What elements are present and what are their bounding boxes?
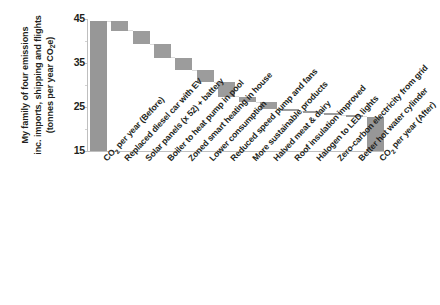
bar-step <box>154 44 171 58</box>
y-tick-label: 15 <box>61 144 85 156</box>
bar-step <box>175 58 192 71</box>
bar-step <box>346 115 363 117</box>
y-axis-line <box>87 19 88 152</box>
bar-step <box>111 21 128 31</box>
bar-step <box>282 109 299 111</box>
bar-step <box>303 111 320 113</box>
y-tick-minor <box>85 129 87 130</box>
category-label: CO2 per year (After) <box>378 100 439 165</box>
category-label: Reduced speed pump and fans <box>229 67 319 163</box>
y-tick-minor <box>85 85 87 86</box>
y-tick-label: 35 <box>61 56 85 68</box>
bar-step <box>133 31 150 44</box>
y-axis-title-text: My family of four emissionsinc. imports,… <box>7 15 57 155</box>
category-label: Lower consumption <box>208 99 269 163</box>
bar-step <box>218 82 235 97</box>
bar-total <box>367 117 384 151</box>
bar-step <box>324 113 341 115</box>
y-tick-label: 25 <box>61 100 85 112</box>
bar-step <box>260 102 277 109</box>
category-label: CO2 per year (Before) <box>102 95 168 165</box>
x-axis-line <box>87 151 386 152</box>
y-tick-minor <box>85 41 87 42</box>
y-axis-title: My family of four emissionsinc. imports,… <box>0 0 64 170</box>
bar-total <box>90 21 107 151</box>
y-tick-label: 45 <box>61 12 85 24</box>
bar-step <box>197 70 214 81</box>
bar-step <box>239 97 256 102</box>
